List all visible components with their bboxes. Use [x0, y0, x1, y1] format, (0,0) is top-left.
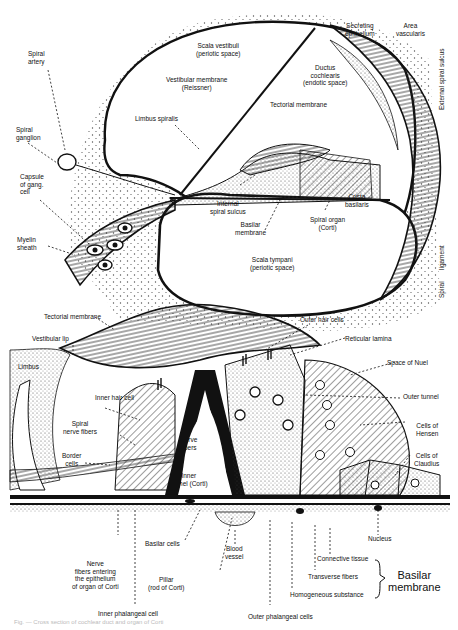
label-nerve-fibers: Nerve fibers	[180, 436, 197, 451]
label-transverse-fibers: Transverse fibers	[308, 573, 358, 581]
label-limbus-spiralis: Limbus spiralis	[135, 115, 178, 123]
label-outer-hair-cells: Outer hair cells	[300, 316, 344, 324]
label-reticular-lamina: Reticular lamina	[345, 335, 392, 343]
label-border-cells: Border cells	[62, 452, 82, 467]
label-tectorial-membrane-top: Tectorial membrane	[270, 101, 327, 109]
label-nucleus: Nucleus	[368, 535, 391, 543]
label-internal-spiral-sulcus: Internal spiral sulcus	[210, 200, 246, 215]
label-inner-phalangeal-cell: Inner phalangeal cell	[98, 610, 158, 618]
label-homogeneous-substance: Homogeneous substance	[290, 591, 364, 599]
label-capsule-gang-cell: Capsule of gang. cell	[20, 173, 44, 196]
label-blood-vessel: Blood vessel	[225, 545, 243, 560]
label-inner-hair-cell: Inner hair cell	[95, 394, 134, 402]
label-inner-tunnel: Inner tunnel (Corti)	[170, 472, 208, 487]
label-connective-tissue: Connective tissue	[317, 555, 368, 563]
figure-caption: Fig. — Cross section of cochlear duct an…	[14, 619, 163, 625]
label-area-vascularis: Area vascularis	[396, 22, 425, 37]
label-ductus-cochlearis: Ductus cochlearis (endotic space)	[303, 64, 347, 87]
label-vestibular-membrane: Vestibular membrane (Reissner)	[166, 76, 227, 91]
label-scala-vestibuli: Scala vestibuli (periotic space)	[196, 42, 240, 57]
label-scala-tympani: Scala tympani (periotic space)	[250, 256, 294, 271]
label-spiral-artery: Spiral artery	[28, 50, 45, 65]
label-spiral-organ: Spiral organ (Corti)	[310, 216, 345, 231]
label-tectorial-membrane-bottom: Tectorial membrane	[44, 313, 101, 321]
label-myelin-sheath: Myelin sheath	[17, 236, 37, 251]
label-secreting-epithelium: Secreting epithelium	[345, 22, 375, 37]
label-spiral-ligament-1: Spiral	[438, 281, 446, 298]
label-cells-of-claudius: Cells of Claudius	[414, 452, 439, 467]
label-external-spiral-sulcus: External spiral sulcus	[438, 49, 446, 110]
label-basilar-cells: Basilar cells	[145, 540, 180, 548]
label-space-of-nuel: Space of Nuel	[387, 359, 428, 367]
label-vestibular-lip: Vestibular lip	[32, 335, 69, 343]
label-nerve-fibers-entering: Nerve fibers entering the epithelium of …	[72, 560, 119, 590]
label-spiral-nerve-fibers: Spiral nerve fibers	[63, 420, 97, 435]
label-outer-phalangeal-cells: Outer phalangeal cells	[248, 613, 313, 621]
label-spiral-ligament-2: ligament	[438, 245, 446, 270]
label-outer-tunnel: Outer tunnel	[403, 393, 439, 401]
label-pillar: Pillar (rod of Corti)	[148, 576, 184, 591]
label-basilar-membrane-group: Basilar membrane	[388, 569, 441, 593]
top-panel-drawing	[58, 13, 440, 330]
label-crista-basilaris: Crista basilaris	[345, 193, 369, 208]
label-spiral-ganglion: Spiral ganglion	[16, 126, 41, 141]
label-cells-of-hensen: Cells of Hensen	[416, 422, 438, 437]
label-basilar-membrane-top: Basilar membrane	[235, 221, 266, 236]
label-limbus: Limbus	[18, 363, 39, 371]
